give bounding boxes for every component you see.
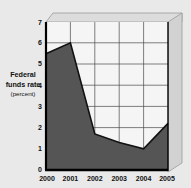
federal-funds-rate-area-chart: 0 1 2 3 4 5 6 7 2000 2001 2002 2003 2004… (0, 0, 191, 188)
x-tick-label-2002: 2002 (87, 175, 103, 182)
y-tick-label-6: 6 (38, 39, 42, 46)
x-tick-label-2001: 2001 (63, 175, 79, 182)
y-tick-label-7: 7 (38, 19, 42, 26)
y-axis-title: Federal funds rate (percent) (6, 70, 41, 97)
x-tick-label-2000: 2000 (39, 175, 55, 182)
y-axis-title-line2: funds rate (6, 80, 41, 89)
y-axis-title-line1: Federal (10, 70, 36, 79)
y-tick-label-5: 5 (38, 60, 42, 67)
x-tick-label-2003: 2003 (111, 175, 127, 182)
plot-right-panel (168, 13, 182, 172)
y-axis-title-unit: (percent) (11, 90, 36, 97)
y-tick-label-2: 2 (38, 124, 42, 131)
x-tick-label-2004: 2004 (136, 175, 152, 182)
y-tick-label-1: 1 (38, 145, 42, 152)
chart-container: 0 1 2 3 4 5 6 7 2000 2001 2002 2003 2004… (0, 0, 191, 188)
plot-top-panel (46, 13, 182, 22)
y-tick-label-3: 3 (38, 103, 42, 110)
x-tick-label-2005: 2005 (159, 175, 175, 182)
y-tick-label-0: 0 (38, 166, 42, 173)
